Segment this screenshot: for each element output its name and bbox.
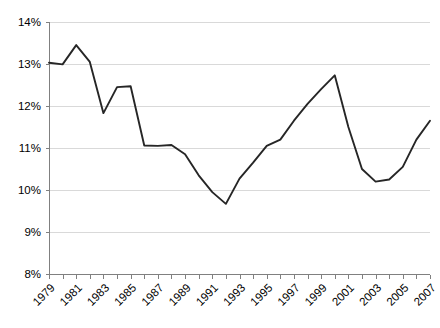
x-tick-label-1989: 1989 xyxy=(166,281,193,308)
gridlines xyxy=(49,23,430,275)
x-tick-label-2001: 2001 xyxy=(330,281,357,308)
x-tick-label-1981: 1981 xyxy=(58,281,85,308)
x-tick-label-1987: 1987 xyxy=(139,281,166,308)
x-axis xyxy=(49,275,431,279)
chart-canvas: 8%9%10%11%12%13%14% 19791981198319851987… xyxy=(0,0,440,328)
x-tick-label-1985: 1985 xyxy=(112,281,139,308)
y-axis-tick-labels: 8%9%10%11%12%13%14% xyxy=(18,16,41,280)
y-tick-label-11: 11% xyxy=(19,142,41,154)
x-tick-label-2007: 2007 xyxy=(411,281,438,308)
y-tick-label-14: 14% xyxy=(18,16,41,28)
x-tick-label-1979: 1979 xyxy=(30,281,57,308)
y-tick-label-12: 12% xyxy=(18,100,41,112)
data-series xyxy=(49,45,430,204)
y-axis xyxy=(46,22,50,275)
data-line-series-0 xyxy=(49,45,430,204)
x-tick-label-1993: 1993 xyxy=(221,281,248,308)
x-tick-label-1999: 1999 xyxy=(302,281,329,308)
x-tick-label-1983: 1983 xyxy=(85,281,112,308)
y-tick-label-8: 8% xyxy=(24,268,41,280)
y-tick-label-9: 9% xyxy=(24,226,41,238)
x-tick-label-1997: 1997 xyxy=(275,281,302,308)
x-tick-label-2005: 2005 xyxy=(384,281,411,308)
x-tick-label-1995: 1995 xyxy=(248,281,275,308)
x-axis-tick-labels: 1979198119831985198719891991199319951997… xyxy=(30,281,438,308)
line-chart: 8%9%10%11%12%13%14% 19791981198319851987… xyxy=(0,0,440,328)
y-tick-label-10: 10% xyxy=(18,184,41,196)
x-tick-label-1991: 1991 xyxy=(194,281,221,308)
x-tick-label-2003: 2003 xyxy=(357,281,384,308)
y-tick-label-13: 13% xyxy=(18,58,41,70)
